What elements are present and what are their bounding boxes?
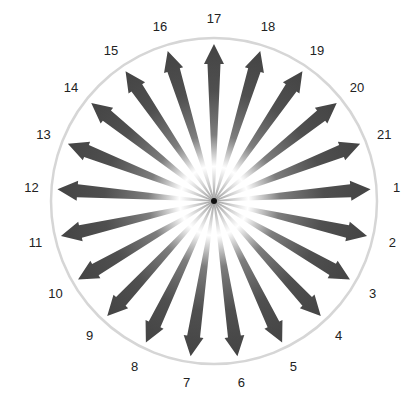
arrow-label: 9 [86,328,93,343]
arrow-label: 11 [29,235,43,250]
arrow-label: 12 [24,180,38,195]
arrow-label: 4 [335,328,342,343]
arrow-label: 18 [261,19,275,34]
arrow-label: 1 [393,180,400,195]
arrow-label: 3 [369,286,376,301]
arrow-label: 14 [64,80,78,95]
arrow-label: 19 [310,43,324,58]
arrow-label: 6 [238,375,245,390]
arrow-label: 16 [153,19,167,34]
arrow-wheel-diagram: 123456789101112131415161718192021 [0,0,416,407]
arrow-label: 20 [350,80,364,95]
arrow-label: 13 [36,127,50,142]
arrow-label: 10 [48,286,62,301]
arrow-label: 21 [377,127,391,142]
arrow-label: 15 [104,43,118,58]
arrow-label: 17 [207,11,221,26]
arrow-label: 7 [183,375,190,390]
center-hub [211,198,217,204]
arrow-label: 2 [389,235,396,250]
arrow-label: 5 [290,359,297,374]
arrow-label: 8 [131,359,138,374]
